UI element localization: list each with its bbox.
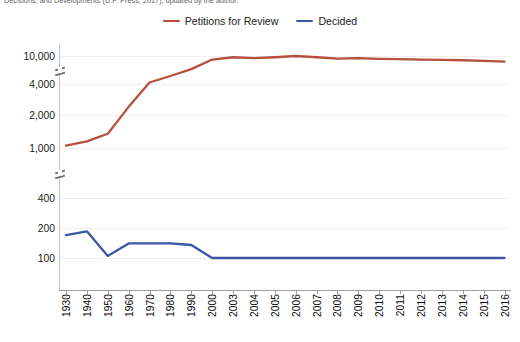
x-axis-tick-label: 2011 [395, 294, 406, 316]
y-axis-break-mask [58, 67, 62, 73]
x-axis-tick-label: 1960 [123, 294, 134, 317]
x-axis-tick-label: 2005 [269, 294, 280, 317]
x-axis-tick-label: 2015 [478, 294, 489, 317]
chart-figure: Decisions, and Developments (U.P. Press,… [0, 0, 520, 342]
x-axis-tick-label: 2003 [228, 294, 239, 317]
x-axis-tick-label: 1940 [81, 294, 92, 317]
x-axis-tick-label: 2016 [499, 294, 510, 317]
x-axis-tick-label: 1980 [165, 294, 176, 317]
x-axis-tick-label: 2013 [436, 294, 447, 317]
x-axis-tick-label: 1970 [144, 294, 155, 317]
x-axis-tick-label: 2009 [353, 294, 364, 317]
x-axis-tick-label: 1950 [102, 294, 113, 317]
x-axis-tick-label: 2012 [415, 294, 426, 317]
series-line-petitions-for-review [66, 56, 505, 146]
x-axis-tick-label: 1990 [186, 294, 197, 317]
y-axis-break-mask [58, 170, 62, 176]
x-axis-tick-label: 2007 [311, 294, 322, 317]
x-axis-tick-label: 2006 [290, 294, 301, 317]
x-axis-tick-label: 1930 [61, 294, 72, 317]
x-axis-tick-label: 2014 [457, 294, 468, 317]
x-axis-tick-label: 2000 [207, 294, 218, 317]
x-axis-tick-label: 2010 [374, 294, 385, 317]
x-axis-tick-label: 2008 [332, 294, 343, 317]
x-axis-tick-label: 2004 [248, 294, 259, 317]
series-line-decided [66, 231, 505, 258]
